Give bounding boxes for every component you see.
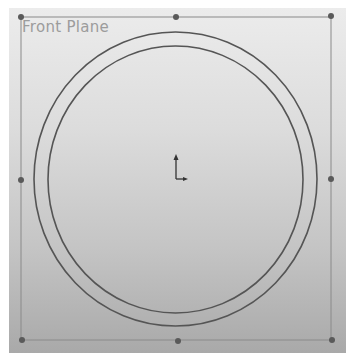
sketch-canvas[interactable] <box>0 0 350 356</box>
handle-top-right[interactable] <box>328 13 334 19</box>
inner-circle-sketch[interactable] <box>48 46 303 313</box>
handle-bottom-right[interactable] <box>329 337 335 343</box>
handle-bottom-middle[interactable] <box>175 338 181 344</box>
handle-bottom-left[interactable] <box>19 337 25 343</box>
handle-middle-left[interactable] <box>18 177 24 183</box>
origin-icon <box>174 154 189 181</box>
handle-middle-right[interactable] <box>328 176 334 182</box>
handle-top-middle[interactable] <box>173 14 179 20</box>
plane-label: Front Plane <box>22 18 109 36</box>
